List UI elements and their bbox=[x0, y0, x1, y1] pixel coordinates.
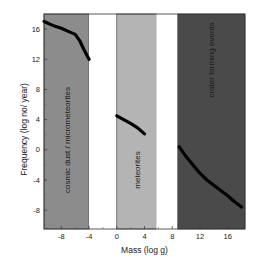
x-tick-label: 0 bbox=[115, 232, 119, 241]
x-tick-label: -4 bbox=[86, 232, 93, 241]
x-tick-label: 16 bbox=[224, 232, 232, 241]
y-tick-label: -4 bbox=[33, 176, 40, 185]
y-tick-label: -8 bbox=[33, 206, 40, 215]
band-label: cosmic dust / micrometeorites bbox=[63, 87, 72, 193]
band-3 bbox=[156, 14, 177, 229]
x-axis-label: Mass (log g) bbox=[121, 245, 168, 255]
x-tick-label: 8 bbox=[170, 232, 174, 241]
chart: cosmic dust / micrometeoritesmeteoritesc… bbox=[0, 0, 264, 268]
x-tick-label: -8 bbox=[58, 232, 65, 241]
y-tick-label: 4 bbox=[36, 115, 40, 124]
y-tick-label: 8 bbox=[36, 85, 40, 94]
band-2 bbox=[117, 14, 157, 229]
y-tick-label: 0 bbox=[36, 145, 40, 154]
band-label: meteorites bbox=[133, 151, 142, 188]
y-tick-label: 16 bbox=[32, 25, 40, 34]
band-label: crater forming events bbox=[207, 22, 216, 97]
y-axis-label: Frequency (log no/ year) bbox=[19, 83, 29, 176]
band-1 bbox=[89, 14, 117, 229]
y-tick-label: 12 bbox=[32, 55, 40, 64]
x-tick-label: 12 bbox=[196, 232, 204, 241]
x-tick-label: 4 bbox=[142, 232, 146, 241]
